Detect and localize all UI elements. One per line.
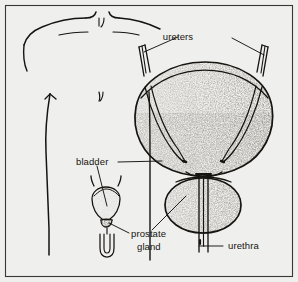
label-ureters: ureters <box>163 31 193 42</box>
label-bladder: bladder <box>76 156 108 167</box>
anatomy-illustration-canvas: ureters bladder prostate gland urethra <box>0 0 298 282</box>
label-urethra: urethra <box>228 240 259 251</box>
label-prostate-line2: gland <box>137 241 161 252</box>
anatomy-figure: ureters bladder prostate gland urethra <box>0 0 298 282</box>
label-prostate-line1: prostate <box>131 228 166 239</box>
